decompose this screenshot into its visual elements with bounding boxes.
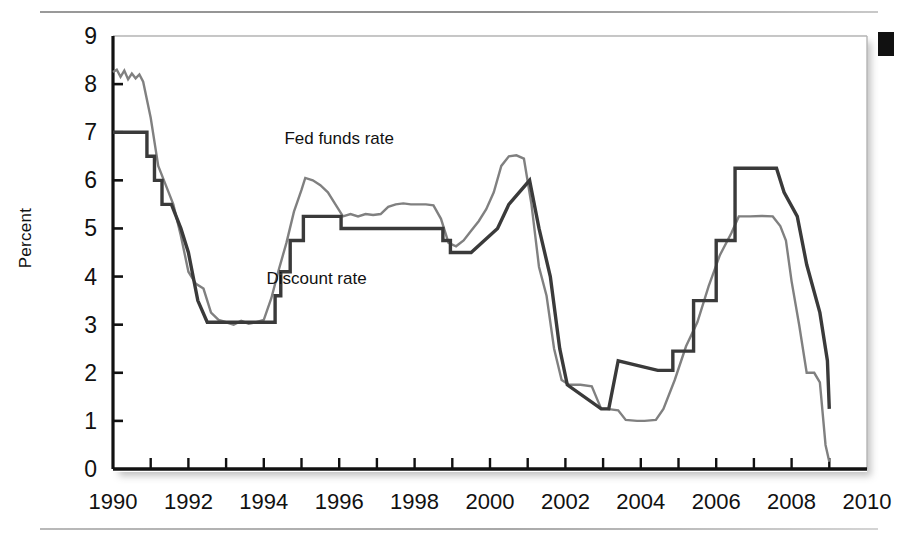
y-tick-label: 2 [84, 360, 97, 386]
y-axis-ticks: 0123456789 [84, 23, 123, 482]
figure-container: Percent 0123456789 199019921994199619982… [0, 0, 918, 537]
y-tick-label: 8 [84, 71, 97, 97]
y-tick-label: 1 [84, 408, 97, 434]
x-tick-label: 1996 [315, 489, 364, 514]
x-tick-label: 1990 [89, 489, 138, 514]
x-tick-label: 2008 [767, 489, 816, 514]
y-tick-label: 4 [84, 264, 97, 290]
x-tick-label: 1992 [164, 489, 213, 514]
annotation-layer: Fed funds rateDiscount rate [266, 129, 394, 288]
x-axis-ticks: 1990199219941996199820002002200420062008… [89, 458, 892, 514]
y-tick-label: 0 [84, 456, 97, 482]
series-layer [113, 70, 829, 462]
y-tick-label: 5 [84, 215, 97, 241]
plot-frame [113, 36, 867, 469]
line-chart: 0123456789 19901992199419961998200020022… [0, 0, 918, 537]
x-tick-label: 2006 [692, 489, 741, 514]
series-annotation: Discount rate [266, 269, 366, 288]
series-line-discount-rate [113, 132, 829, 409]
x-tick-label: 2002 [541, 489, 590, 514]
series-annotation: Fed funds rate [284, 129, 394, 148]
x-tick-label: 1998 [390, 489, 439, 514]
x-tick-label: 2010 [843, 489, 892, 514]
y-tick-label: 9 [84, 23, 97, 49]
x-tick-label: 2004 [616, 489, 665, 514]
y-tick-label: 7 [84, 119, 97, 145]
y-tick-label: 3 [84, 312, 97, 338]
x-tick-label: 2000 [466, 489, 515, 514]
series-line-fed-funds-rate [113, 70, 829, 462]
x-tick-label: 1994 [239, 489, 288, 514]
y-tick-label: 6 [84, 167, 97, 193]
